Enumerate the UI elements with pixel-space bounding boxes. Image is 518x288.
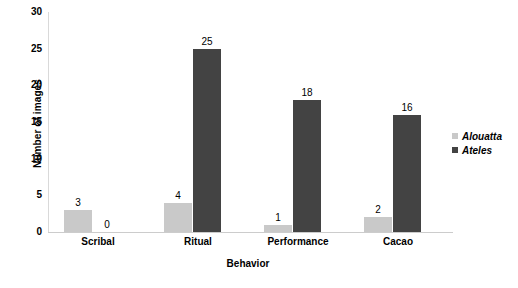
bar-value-label: 1 xyxy=(275,212,281,223)
bar-scribal-alouatta[interactable]: 3 xyxy=(64,210,92,232)
plot-area: 30Scribal425Ritual118Performance216Cacao xyxy=(48,12,448,232)
legend-item-alouatta[interactable]: Alouatta xyxy=(452,129,516,143)
y-axis-tick-labels: 051015202530 xyxy=(18,0,42,288)
y-tick-label: 30 xyxy=(20,7,42,17)
bar-value-label: 0 xyxy=(104,219,110,230)
bar-value-label: 4 xyxy=(175,190,181,201)
y-tick-label: 0 xyxy=(20,227,42,237)
bar-value-label: 18 xyxy=(301,87,312,98)
legend-item-ateles[interactable]: Ateles xyxy=(452,143,516,157)
bar-group: 118Performance xyxy=(248,12,348,232)
bar-group: 425Ritual xyxy=(148,12,248,232)
bar-ritual-ateles[interactable]: 25 xyxy=(193,49,221,232)
bar-value-label: 3 xyxy=(75,197,81,208)
bar-value-label: 2 xyxy=(375,204,381,215)
legend-swatch-icon xyxy=(452,133,458,139)
y-tick-label: 20 xyxy=(20,80,42,90)
x-tick-label-cacao: Cacao xyxy=(348,236,448,247)
legend-label: Alouatta xyxy=(462,131,502,142)
bar-performance-ateles[interactable]: 18 xyxy=(293,100,321,232)
legend: AlouattaAteles xyxy=(452,129,516,157)
x-axis-title: Behavior xyxy=(48,258,448,269)
x-tick-label-scribal: Scribal xyxy=(48,236,148,247)
bar-cacao-ateles[interactable]: 16 xyxy=(393,115,421,232)
bar-ritual-alouatta[interactable]: 4 xyxy=(164,203,192,232)
y-tick-label: 25 xyxy=(20,44,42,54)
bar-cacao-alouatta[interactable]: 2 xyxy=(364,217,392,232)
x-tick-label-ritual: Ritual xyxy=(148,236,248,247)
legend-label: Ateles xyxy=(462,145,492,156)
bar-group: 216Cacao xyxy=(348,12,448,232)
y-tick-label: 15 xyxy=(20,117,42,127)
bar-performance-alouatta[interactable]: 1 xyxy=(264,225,292,232)
bar-value-label: 16 xyxy=(401,102,412,113)
legend-swatch-icon xyxy=(452,147,458,153)
y-tick-label: 5 xyxy=(20,190,42,200)
bar-chart: Number of images 051015202530 30Scribal4… xyxy=(0,0,518,288)
bar-value-label: 25 xyxy=(201,36,212,47)
y-tick-label: 10 xyxy=(20,154,42,164)
bar-group: 30Scribal xyxy=(48,12,148,232)
x-axis-line xyxy=(48,232,453,233)
x-tick-label-performance: Performance xyxy=(248,236,348,247)
